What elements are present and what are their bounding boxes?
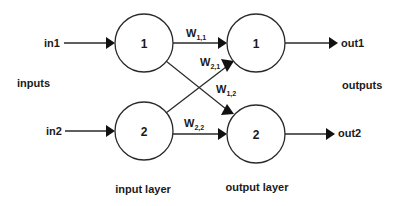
input-label-in2: in2 — [46, 125, 62, 137]
svg-text:W2,1: W2,1 — [200, 56, 220, 71]
weight-label-w22: W2,2 — [184, 117, 204, 132]
svg-text:W2,2: W2,2 — [184, 117, 204, 132]
weight-label-w21: W2,1 — [200, 56, 220, 71]
output-node-1: 1 — [227, 14, 285, 72]
outputs-group-label: outputs — [342, 79, 382, 91]
inputs-group-label: inputs — [17, 77, 50, 89]
output-label-out2: out2 — [338, 127, 361, 139]
output-arrow-out2 — [285, 128, 335, 140]
weight-w22-base: W — [184, 117, 195, 129]
weight-label-w11: W1,1 — [186, 27, 206, 42]
input-node-1-label: 1 — [141, 37, 148, 51]
weight-w12-base: W — [216, 83, 227, 95]
output-node-1-label: 1 — [253, 37, 260, 51]
weight-w21-sub: 2,1 — [210, 63, 220, 71]
weight-w11-sub: 1,1 — [196, 34, 206, 42]
weight-w21-base: W — [200, 56, 211, 68]
input-arrow-in1 — [64, 37, 115, 49]
neural-network-diagram: 1 2 1 2 W1,1 W2,1 W1,2 W2,2 in1 in2 inpu… — [0, 0, 399, 206]
input-label-in1: in1 — [44, 37, 60, 49]
weight-label-w12: W1,2 — [216, 83, 236, 98]
output-node-2-label: 2 — [253, 128, 260, 142]
input-node-1: 1 — [115, 14, 173, 72]
output-arrow-out1 — [285, 37, 338, 49]
svg-text:W1,1: W1,1 — [186, 27, 206, 42]
input-arrow-in2 — [65, 125, 115, 137]
input-node-2-label: 2 — [141, 125, 148, 139]
svg-text:W1,2: W1,2 — [216, 83, 236, 98]
input-layer-caption: input layer — [115, 183, 171, 195]
weight-w11-base: W — [186, 27, 197, 39]
weight-w12-sub: 1,2 — [226, 90, 236, 98]
weight-w22-sub: 2,2 — [194, 124, 204, 132]
output-layer-caption: output layer — [226, 181, 290, 193]
output-label-out1: out1 — [341, 37, 364, 49]
output-node-2: 2 — [227, 105, 285, 163]
input-node-2: 2 — [115, 102, 173, 160]
